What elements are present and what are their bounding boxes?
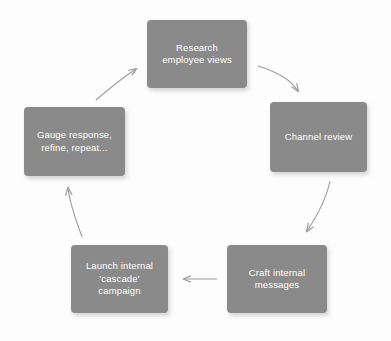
- node-gauge-response-refine-repeat[interactable]: Gauge response, refine, repeat...: [24, 107, 125, 176]
- arrow-gauge-to-research: [96, 69, 136, 100]
- node-research-employee-views[interactable]: Research employee views: [147, 20, 247, 88]
- node-label-launch-internal-cascade-campaign: Launch internal 'cascade' campaign: [73, 260, 166, 298]
- node-label-channel-review: Channel review: [272, 131, 365, 144]
- node-label-gauge-response-refine-repeat: Gauge response, refine, repeat...: [26, 129, 123, 154]
- node-channel-review[interactable]: Channel review: [270, 102, 367, 172]
- arrow-launch-to-gauge: [68, 188, 82, 237]
- node-label-research-employee-views: Research employee views: [149, 42, 245, 67]
- diagram-canvas: Research employee views Channel review C…: [0, 0, 391, 341]
- arrow-research-to-channel: [258, 66, 298, 91]
- node-launch-internal-cascade-campaign[interactable]: Launch internal 'cascade' campaign: [71, 245, 168, 313]
- arrow-channel-to-craft: [307, 181, 330, 231]
- node-craft-internal-messages[interactable]: Craft internal messages: [227, 245, 327, 313]
- node-label-craft-internal-messages: Craft internal messages: [229, 267, 325, 292]
